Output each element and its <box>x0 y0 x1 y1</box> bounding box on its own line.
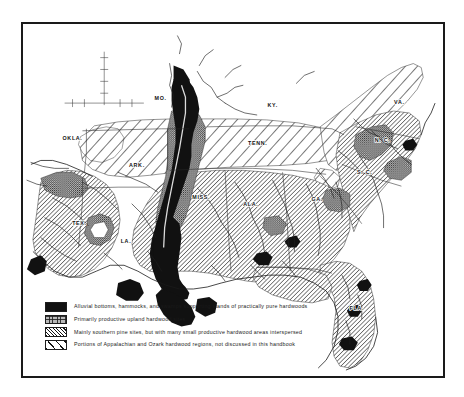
state-label-la: LA. <box>121 238 132 244</box>
legend-item-pine: Mainly southern pine sites, but with man… <box>45 326 345 338</box>
legend-swatch-appalachian <box>45 340 67 350</box>
state-label-ky: KY. <box>267 102 277 108</box>
state-label-tex: TEX. <box>72 220 87 226</box>
legend-swatch-alluvial <box>45 302 67 312</box>
state-label-miss: MISS. <box>192 194 210 200</box>
state-label-tenn: TENN. <box>248 140 267 146</box>
state-label-ga: GA. <box>311 196 323 202</box>
state-label-sc: S. C. <box>357 169 372 175</box>
legend-item-upland: Primarily productive upland hardwood sit… <box>45 314 345 326</box>
state-label-nc: N. C. <box>375 137 391 143</box>
state-label-mo: MO. <box>155 95 167 101</box>
legend-swatch-pine <box>45 327 67 337</box>
legend-item-appalachian: Portions of Appalachian and Ozark hardwo… <box>45 339 345 351</box>
legend-swatch-upland <box>45 315 67 325</box>
legend-label-upland: Primarily productive upland hardwood sit… <box>74 317 186 322</box>
state-label-fla: FLA. <box>350 305 365 311</box>
map-figure: MO.KY.OKLA.TENN.ARK.VA.N. C.S. C.MISS.AL… <box>0 0 464 397</box>
state-label-okla: OKLA. <box>62 135 82 141</box>
legend-item-alluvial: Alluvial bottoms, hammocks, and swamps s… <box>45 301 345 313</box>
state-label-ark: ARK. <box>129 162 145 168</box>
legend-label-alluvial: Alluvial bottoms, hammocks, and swamps s… <box>74 304 307 309</box>
legend-label-appalachian: Portions of Appalachian and Ozark hardwo… <box>74 342 295 347</box>
state-label-ala: ALA. <box>243 201 258 207</box>
legend-label-pine: Mainly southern pine sites, but with man… <box>74 330 302 335</box>
map-legend: Alluvial bottoms, hammocks, and swamps s… <box>45 301 345 351</box>
state-label-va: VA. <box>394 99 405 105</box>
